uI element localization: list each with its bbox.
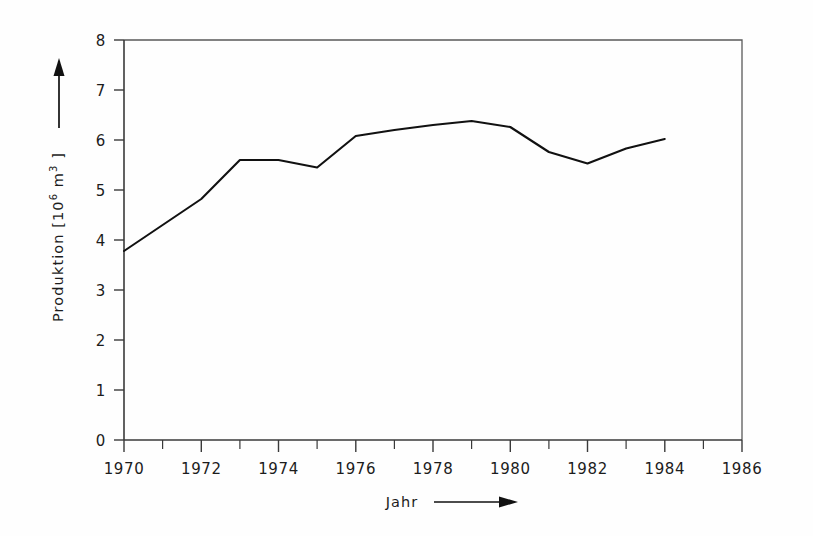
y-axis-label-exponent: 6 [48,193,59,200]
y-tick-label: 1 [96,382,106,400]
y-tick-label: 8 [96,32,106,50]
y-axis-label: Produktion [106 m3 ] [48,152,66,322]
y-tick-label: 4 [96,232,106,250]
x-tick-label: 1986 [722,460,763,478]
y-axis-arrow-icon [54,58,65,128]
x-tick-label: 1974 [258,460,299,478]
y-axis-tick-labels: 0 1 2 3 4 5 6 7 8 [96,32,106,450]
y-axis-label-close: ] [50,152,66,164]
y-tick-label: 5 [96,182,106,200]
x-axis-ticks [124,440,742,452]
x-tick-label: 1984 [645,460,686,478]
x-axis-label: Jahr [385,494,419,510]
y-axis-label-unit-exponent: 3 [48,164,59,171]
x-tick-label: 1976 [336,460,377,478]
y-tick-label: 6 [96,132,106,150]
y-tick-label: 3 [96,282,106,300]
y-tick-label: 7 [96,82,106,100]
plot-frame [124,40,742,440]
x-tick-label: 1970 [104,460,145,478]
x-tick-label: 1978 [413,460,454,478]
x-axis-arrow-icon [434,497,518,508]
production-line-chart: 0 1 2 3 4 5 6 7 8 [0,0,813,536]
x-tick-label: 1980 [490,460,531,478]
y-tick-label: 2 [96,332,106,350]
y-axis-label-suffix: m [50,172,66,193]
y-axis-label-prefix: Produktion [10 [50,200,66,322]
y-tick-label: 0 [96,432,106,450]
x-axis-tick-labels: 1970 1972 1974 1976 1978 1980 1982 1984 … [104,460,763,478]
chart-figure: 0 1 2 3 4 5 6 7 8 [0,0,813,536]
x-tick-label: 1972 [181,460,222,478]
production-data-line [124,121,665,251]
y-axis-ticks [114,40,124,440]
x-tick-label: 1982 [567,460,608,478]
